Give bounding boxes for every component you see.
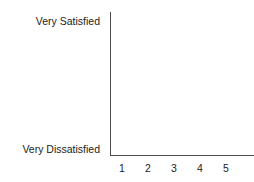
y-axis-line bbox=[110, 12, 111, 156]
y-axis-top-label: Very Satisfied bbox=[36, 15, 100, 27]
x-tick-label-1: 1 bbox=[114, 161, 130, 175]
clipped-title-fragment: · ·· ·· ···· ·· ···· ·· bbox=[148, 0, 252, 3]
satisfaction-chart: · ·· ·· ···· ·· ···· ·· Very Satisfied V… bbox=[0, 0, 254, 182]
x-axis-tick-labels: 12345 bbox=[110, 161, 254, 175]
x-tick-label-3: 3 bbox=[166, 161, 182, 175]
x-tick-label-4: 4 bbox=[192, 161, 208, 175]
x-tick-label-2: 2 bbox=[140, 161, 156, 175]
x-axis-line bbox=[110, 155, 254, 156]
y-axis-bottom-label: Very Dissatisfied bbox=[22, 143, 100, 155]
x-tick-label-5: 5 bbox=[218, 161, 234, 175]
